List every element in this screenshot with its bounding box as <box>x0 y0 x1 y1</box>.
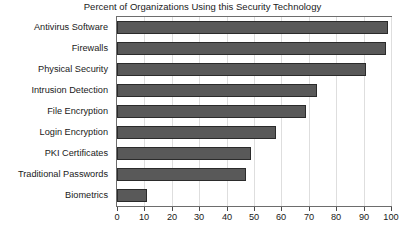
bar-chart: Percent of Organizations Using this Secu… <box>0 0 405 229</box>
axis-tick <box>281 207 282 211</box>
axis-tick <box>364 207 365 211</box>
category-label: Firewalls <box>72 43 108 54</box>
axis-tick <box>117 207 118 211</box>
axis-tick-label: 20 <box>167 212 177 222</box>
category-label: PKI Certificates <box>45 148 108 159</box>
bar <box>117 126 276 139</box>
category-axis-labels: Antivirus SoftwareFirewallsPhysical Secu… <box>0 16 112 207</box>
category-label: Login Encryption <box>40 127 108 138</box>
bar <box>117 42 386 55</box>
axis-tick <box>391 207 392 211</box>
axis-tick <box>144 207 145 211</box>
bar <box>117 189 147 202</box>
bar <box>117 147 251 160</box>
bar <box>117 84 317 97</box>
category-label: File Encryption <box>47 106 108 117</box>
axis-tick <box>172 207 173 211</box>
axis-tick-label: 30 <box>194 212 204 222</box>
category-label: Biometrics <box>65 190 108 201</box>
bar <box>117 105 306 118</box>
bar <box>117 21 388 34</box>
axis-tick-label: 90 <box>359 212 369 222</box>
axis-tick <box>309 207 310 211</box>
bar <box>117 63 366 76</box>
axis-tick <box>199 207 200 211</box>
axis-tick-label: 50 <box>249 212 259 222</box>
bar <box>117 168 246 181</box>
plot-area <box>116 16 392 207</box>
category-label: Physical Security <box>38 64 108 75</box>
axis-tick <box>227 207 228 211</box>
chart-title: Percent of Organizations Using this Secu… <box>0 1 405 12</box>
axis-tick <box>254 207 255 211</box>
category-label: Traditional Passwords <box>18 169 108 180</box>
axis-tick <box>336 207 337 211</box>
axis-tick-label: 40 <box>222 212 232 222</box>
axis-tick-label: 0 <box>114 212 119 222</box>
axis-tick-label: 10 <box>139 212 149 222</box>
value-axis: 0102030405060708090100 <box>116 207 392 229</box>
axis-tick-label: 70 <box>304 212 314 222</box>
axis-tick-label: 60 <box>276 212 286 222</box>
category-label: Antivirus Software <box>34 22 108 33</box>
category-label: Intrusion Detection <box>31 85 108 96</box>
axis-tick-label: 80 <box>331 212 341 222</box>
gridline <box>391 17 392 206</box>
axis-tick-label: 100 <box>383 212 398 222</box>
bars-layer <box>117 17 391 206</box>
